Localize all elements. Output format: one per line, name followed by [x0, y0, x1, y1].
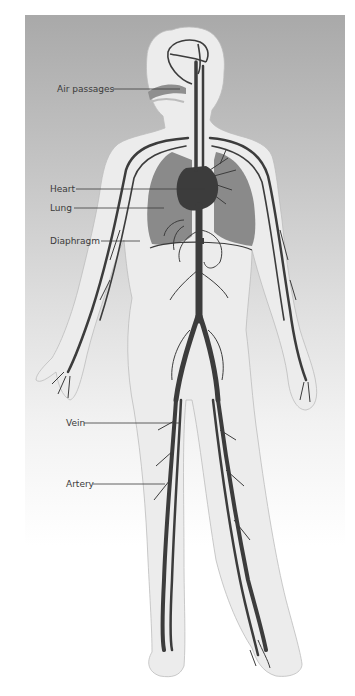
circulatory-system-figure: [0, 0, 355, 696]
label-lung: Lung: [50, 203, 72, 213]
label-heart: Heart: [50, 184, 75, 194]
diaphragm-marker: [196, 238, 204, 244]
label-vein: Vein: [66, 418, 85, 428]
label-air-passages: Air passages: [57, 84, 114, 94]
label-artery: Artery: [66, 479, 94, 489]
label-diaphragm: Diaphragm: [50, 236, 100, 246]
